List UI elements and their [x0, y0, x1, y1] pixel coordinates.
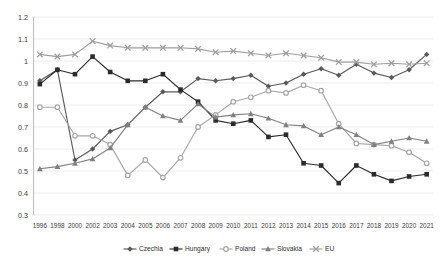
- data-point-marker: [73, 134, 78, 139]
- data-point-marker: [55, 68, 60, 73]
- legend-item-poland[interactable]: Poland: [220, 245, 256, 252]
- legend-item-eu[interactable]: EU: [310, 245, 335, 252]
- data-point-marker: [407, 150, 412, 155]
- data-point-marker: [266, 135, 271, 140]
- data-point-marker: [283, 80, 288, 85]
- x-axis-tick-label: 2011: [244, 222, 258, 229]
- series-line: [40, 57, 427, 184]
- data-point-marker: [354, 141, 359, 146]
- series-poland: [38, 83, 429, 180]
- y-axis-tick-label: 1.1: [18, 35, 28, 44]
- x-axis-tick-label: 1996: [33, 222, 48, 229]
- y-axis-tick-label: 0.6: [18, 145, 28, 154]
- x-axis-labels: 1996199820002002200320042005200620072008…: [33, 222, 435, 229]
- data-point-marker: [389, 179, 394, 184]
- x-axis-tick-label: 2003: [103, 222, 118, 229]
- data-point-marker: [108, 70, 113, 75]
- data-point-marker: [178, 156, 183, 161]
- data-point-marker: [224, 247, 229, 252]
- x-axis-tick-label: 2002: [85, 222, 100, 229]
- legend-label: Slovakia: [277, 245, 302, 252]
- data-point-marker: [318, 66, 323, 71]
- data-point-marker: [55, 105, 60, 110]
- data-point-marker: [301, 83, 306, 88]
- y-axis-tick-label: 0.3: [18, 211, 28, 220]
- series-hungary: [38, 54, 429, 185]
- y-axis-tick-label: 0.9: [18, 79, 28, 88]
- data-point-marker: [231, 121, 236, 126]
- data-point-marker: [127, 246, 132, 251]
- data-point-marker: [231, 76, 236, 81]
- data-point-marker: [372, 172, 377, 177]
- series-eu: [37, 38, 429, 67]
- series-czechia: [37, 52, 429, 163]
- legend-label: Hungary: [185, 245, 211, 253]
- x-axis-tick-label: 2019: [384, 222, 399, 229]
- data-point-marker: [174, 247, 179, 252]
- data-point-marker: [336, 73, 341, 78]
- data-point-marker: [406, 135, 412, 140]
- data-point-marker: [301, 161, 306, 166]
- data-point-marker: [196, 125, 201, 130]
- data-point-marker: [407, 174, 412, 179]
- data-point-marker: [248, 73, 253, 78]
- legend-item-czechia[interactable]: Czechia: [124, 245, 164, 252]
- data-point-marker: [284, 91, 289, 96]
- chart-canvas: 0.30.40.50.60.70.80.911.11.2199619982000…: [0, 0, 443, 267]
- data-point-marker: [336, 181, 341, 186]
- x-axis-tick-label: 2021: [420, 222, 435, 229]
- x-axis-tick-label: 2018: [367, 222, 382, 229]
- data-point-marker: [266, 88, 271, 93]
- data-point-marker: [73, 72, 78, 77]
- data-point-marker: [161, 175, 166, 180]
- data-point-marker: [161, 72, 166, 77]
- chart-legend: CzechiaHungaryPolandSlovakiaEU: [124, 245, 335, 253]
- x-axis-tick-label: 2020: [402, 222, 417, 229]
- y-axis-tick-label: 0.5: [18, 167, 28, 176]
- data-point-marker: [143, 158, 148, 163]
- x-axis-tick-label: 2008: [191, 222, 206, 229]
- data-point-marker: [143, 79, 148, 84]
- data-point-marker: [389, 75, 394, 80]
- data-point-marker: [125, 173, 130, 178]
- legend-label: Czechia: [139, 245, 163, 252]
- legend-item-hungary[interactable]: Hungary: [170, 245, 211, 253]
- x-axis-tick-label: 2005: [138, 222, 153, 229]
- y-axis-tick-label: 1.2: [18, 13, 28, 22]
- x-axis-tick-label: 2013: [279, 222, 294, 229]
- x-axis-tick-label: 2007: [173, 222, 188, 229]
- data-point-marker: [424, 172, 429, 177]
- x-axis-tick-label: 2016: [332, 222, 347, 229]
- legend-label: Poland: [235, 245, 256, 252]
- y-axis-tick-label: 0.4: [18, 189, 28, 198]
- x-axis-tick-label: 2014: [296, 222, 311, 229]
- y-axis-tick-label: 0.8: [18, 101, 28, 110]
- legend-label: EU: [325, 245, 334, 252]
- x-axis-tick-label: 1998: [50, 222, 65, 229]
- data-point-marker: [371, 70, 376, 75]
- data-point-marker: [160, 113, 166, 118]
- x-axis-tick-label: 2010: [226, 222, 241, 229]
- x-axis-tick-label: 2012: [261, 222, 276, 229]
- data-point-marker: [424, 161, 429, 166]
- data-point-marker: [354, 163, 359, 168]
- x-axis-tick-label: 2004: [121, 222, 136, 229]
- data-point-marker: [249, 118, 254, 123]
- series-slovakia: [37, 101, 430, 171]
- data-point-marker: [90, 54, 95, 59]
- data-point-marker: [90, 134, 95, 139]
- data-point-marker: [284, 132, 289, 137]
- data-point-marker: [231, 99, 236, 104]
- data-point-marker: [301, 72, 306, 77]
- x-axis-tick-label: 2006: [156, 222, 171, 229]
- y-axis-tick-label: 1: [24, 57, 28, 66]
- x-axis-tick-label: 2015: [314, 222, 329, 229]
- legend-item-slovakia[interactable]: Slovakia: [262, 245, 303, 252]
- data-point-marker: [38, 105, 43, 110]
- y-axis-tick-label: 0.7: [18, 123, 28, 132]
- data-point-marker: [249, 95, 254, 100]
- data-point-marker: [178, 87, 183, 92]
- data-point-marker: [90, 156, 96, 161]
- line-chart: 0.30.40.50.60.70.80.911.11.2199619982000…: [0, 0, 443, 267]
- x-axis-tick-label: 2017: [349, 222, 364, 229]
